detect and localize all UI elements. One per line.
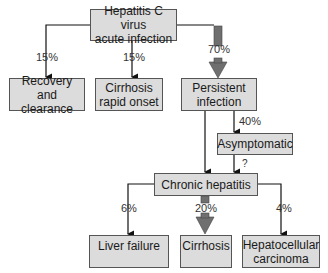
edge-label: 20% xyxy=(195,202,217,214)
node-chronic-hepatitis: Chronic hepatitis xyxy=(154,173,258,196)
node-liver-failure: Liver failure xyxy=(89,235,169,268)
edge-label: 15% xyxy=(123,51,145,63)
node-persistent: Persistent infection xyxy=(181,78,257,111)
node-recovery: Recovery and clearance xyxy=(9,78,85,111)
edge-label: ? xyxy=(242,158,248,169)
node-asymptomatic: Asymptomatic xyxy=(217,133,293,155)
edge-label: 40% xyxy=(239,115,261,127)
node-cirrhosis: Cirrhosis xyxy=(180,235,232,268)
edge-label: 4% xyxy=(276,202,292,214)
edge-label: 6% xyxy=(121,202,137,214)
edge-label: 70% xyxy=(208,43,230,55)
edge-label: 15% xyxy=(36,51,58,63)
node-acute-infection: Hepatitis C virus acute infection xyxy=(90,9,177,41)
node-cirrhosis-rapid: Cirrhosis rapid onset xyxy=(95,78,163,111)
node-hcc: Hepatocellular carcinoma xyxy=(242,235,320,268)
